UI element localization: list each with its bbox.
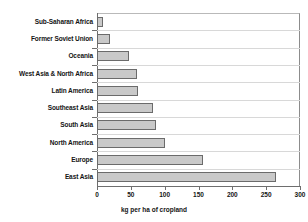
category-label: Latin America xyxy=(0,87,93,94)
category-label: North America xyxy=(0,139,93,146)
x-axis-tick xyxy=(199,186,200,190)
x-axis-tick-label: 300 xyxy=(280,191,308,198)
bar-row xyxy=(97,151,300,168)
bar xyxy=(97,17,103,27)
bar xyxy=(97,69,137,79)
category-label: East Asia xyxy=(0,173,93,180)
bar xyxy=(97,103,153,113)
bar-row xyxy=(97,169,300,186)
category-label: Southeast Asia xyxy=(0,104,93,111)
category-label: South Asia xyxy=(0,121,93,128)
bar-row xyxy=(97,134,300,151)
bar xyxy=(97,155,203,165)
bar xyxy=(97,120,156,130)
bar-row xyxy=(97,65,300,82)
category-label: Oceania xyxy=(0,52,93,59)
bar-row xyxy=(97,100,300,117)
x-axis-tick xyxy=(165,186,166,190)
bar xyxy=(97,51,129,61)
x-axis-tick xyxy=(97,186,98,190)
bar-row xyxy=(97,13,300,30)
bar xyxy=(97,86,138,96)
bar-chart: Sub-Saharan AfricaFormer Soviet UnionOce… xyxy=(0,0,308,222)
bar-row xyxy=(97,48,300,65)
bar xyxy=(97,172,276,182)
x-axis-tick xyxy=(232,186,233,190)
x-axis-title: kg per ha of cropland xyxy=(0,206,308,213)
x-axis-tick xyxy=(266,186,267,190)
category-label: Europe xyxy=(0,156,93,163)
bar-row xyxy=(97,30,300,47)
x-axis-tick xyxy=(300,186,301,190)
bar-row xyxy=(97,117,300,134)
category-label: Sub-Saharan Africa xyxy=(0,18,93,25)
bar xyxy=(97,34,110,44)
x-axis-tick xyxy=(131,186,132,190)
category-label: Former Soviet Union xyxy=(0,35,93,42)
bar-row xyxy=(97,82,300,99)
bar xyxy=(97,138,165,148)
category-label: West Asia & North Africa xyxy=(0,70,93,77)
